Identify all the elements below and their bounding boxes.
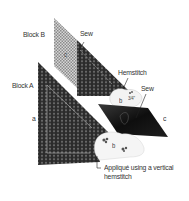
label-piece-c-right: c	[163, 114, 166, 123]
label-sew-top: Sew	[80, 29, 93, 38]
quilt-block-diagram: Block B Sew c Hemstitch Sew Block A a b …	[0, 0, 189, 201]
label-piece-b-top: b	[119, 96, 122, 105]
label-block-b: Block B	[23, 30, 45, 39]
label-hemstitch: Hemstitch	[118, 68, 147, 77]
label-applique-line2: hemstitch	[104, 172, 132, 181]
label-piece-a: a	[32, 114, 36, 123]
label-applique-line1: Appliqué using a vertical	[104, 163, 173, 172]
label-piece-b-bottom: b	[112, 141, 115, 150]
label-fraction: 3/4"	[128, 94, 135, 103]
label-block-a: Block A	[12, 81, 33, 90]
block-b-applique-b	[110, 89, 142, 108]
hemstitch-leader	[123, 78, 128, 89]
label-piece-c-top: c	[64, 50, 67, 59]
label-sew-right: Sew	[141, 84, 154, 93]
block-a-applique-b	[94, 132, 144, 160]
